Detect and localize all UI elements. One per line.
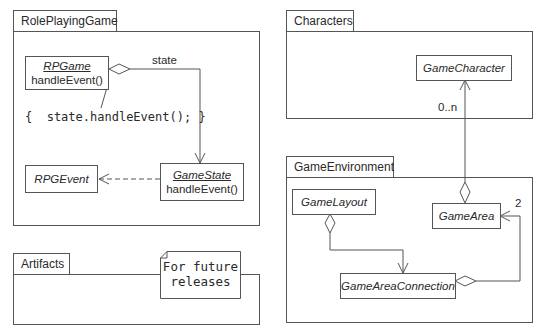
code-note: { state.handleEvent(); }	[25, 110, 206, 124]
class-name-gamearea: GameArea	[439, 209, 495, 223]
note-line-1: For future	[160, 259, 241, 274]
aggregation-diamond-connection	[455, 276, 476, 286]
aggregation-diamond-gamearea	[460, 182, 470, 203]
class-name-rpgevent: RPGEvent	[34, 172, 88, 186]
class-name-gamelayout: GameLayout	[301, 195, 367, 209]
note-line-2: releases	[160, 274, 241, 289]
class-gamecharacter[interactable]: GameCharacter	[416, 55, 512, 81]
association-layout-connection	[330, 233, 403, 273]
class-name-gamecharacter: GameCharacter	[423, 61, 505, 75]
method-handleevent: handleEvent()	[31, 73, 103, 87]
class-rpgevent[interactable]: RPGEvent	[25, 165, 98, 193]
class-name-gamestate: GameState	[173, 168, 231, 182]
class-gameareaconnection[interactable]: GameAreaConnection	[340, 273, 456, 299]
association-label-state: state	[152, 54, 177, 66]
aggregation-diamond-rpgame	[109, 64, 130, 74]
class-gamearea[interactable]: GameArea	[432, 203, 501, 229]
class-name-rpgame: RPGame	[43, 59, 90, 73]
multiplicity-0-n: 0..n	[438, 101, 457, 113]
note-future-releases: For future releases	[160, 251, 241, 299]
method-handleevent: handleEvent()	[166, 182, 238, 196]
class-gamestate[interactable]: GameState handleEvent()	[160, 163, 244, 201]
class-rpgame[interactable]: RPGame handleEvent()	[25, 56, 109, 90]
aggregation-diamond-gamelayout	[325, 214, 335, 233]
class-gamelayout[interactable]: GameLayout	[292, 189, 376, 215]
multiplicity-2: 2	[515, 197, 521, 209]
class-name-gameareaconnection: GameAreaConnection	[341, 279, 455, 293]
